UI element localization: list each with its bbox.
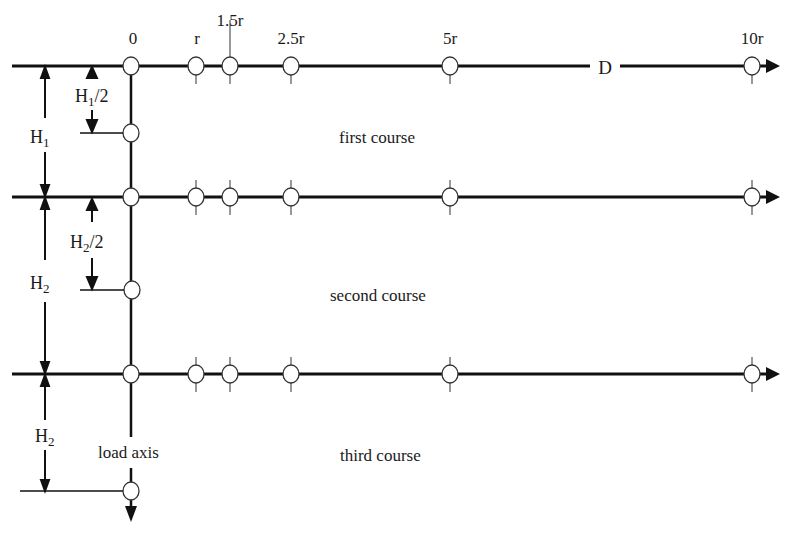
point-circle	[442, 188, 458, 206]
label-2-5r: 2.5r	[278, 29, 305, 48]
label-third-course: third course	[340, 446, 421, 465]
point-circle	[442, 57, 458, 75]
point-circle	[222, 57, 238, 75]
point-circle	[283, 188, 299, 206]
point-circle	[744, 365, 760, 383]
point-circle	[124, 281, 140, 299]
label-h2: H2	[30, 273, 50, 296]
label-first-course: first course	[339, 128, 415, 147]
label-second-course: second course	[330, 286, 426, 305]
label-5r: 5r	[443, 29, 458, 48]
label-origin: 0	[129, 29, 138, 48]
label-1-5r: 1.5r	[217, 11, 244, 30]
point-circle	[188, 365, 204, 383]
label-10r: 10r	[741, 29, 764, 48]
point-circle	[123, 188, 139, 206]
label-load-axis: load axis	[98, 443, 159, 462]
point-circle	[123, 365, 139, 383]
measuring-points	[123, 57, 760, 500]
point-circle	[188, 188, 204, 206]
arrow-right-icon	[766, 59, 780, 73]
arrow-right-icon	[766, 367, 780, 381]
label-h1-half: H1/2	[75, 86, 109, 109]
label-h2-half: H2/2	[70, 232, 104, 255]
pile-layer-diagram: 0 r 1.5r 2.5r 5r 10r D H1 H1/2 H2 H2/2 H…	[0, 0, 799, 536]
label-h3: H2	[35, 426, 55, 449]
point-circle	[123, 482, 139, 500]
point-circle	[222, 365, 238, 383]
point-circle	[123, 57, 139, 75]
tick-marks	[196, 20, 752, 392]
point-circle	[744, 57, 760, 75]
point-circle	[188, 57, 204, 75]
point-circle	[222, 188, 238, 206]
label-h1: H1	[30, 127, 50, 150]
label-distance: D	[598, 57, 612, 78]
arrow-down-icon	[125, 506, 137, 522]
arrow-right-icon	[766, 190, 780, 204]
point-circle	[283, 365, 299, 383]
point-circle	[283, 57, 299, 75]
label-r: r	[194, 29, 200, 48]
point-circle	[442, 365, 458, 383]
point-circle	[123, 124, 139, 142]
point-circle	[744, 188, 760, 206]
